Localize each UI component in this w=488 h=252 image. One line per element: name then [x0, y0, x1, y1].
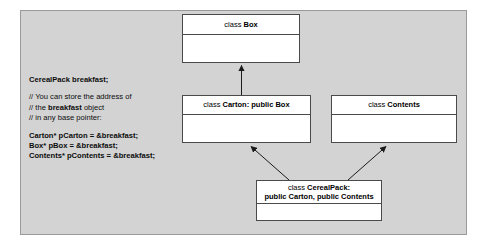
class-name: CerealPack: — [307, 183, 350, 192]
code-declaration: CerealPack breakfast; — [29, 75, 204, 85]
class-keyword: class — [288, 183, 307, 192]
code-annotation: CerealPack breakfast; // You can store t… — [29, 75, 204, 162]
class-box-cerealpack[interactable]: class CerealPack: public Carton, public … — [256, 180, 382, 221]
class-box-header: class CerealPack: public Carton, public … — [257, 181, 381, 204]
code-spacer-1 — [29, 85, 204, 92]
class-box-contents[interactable]: class Contents — [331, 95, 457, 143]
code-statement-1: Carton* pCarton = &breakfast; — [29, 131, 204, 141]
class-box-body — [257, 204, 381, 221]
class-box-body — [183, 35, 299, 63]
class-bases-line: public Carton, public Contents — [264, 192, 373, 202]
code-comment-line-1: // You can store the address of — [29, 92, 204, 102]
class-title-line: class CerealPack: — [288, 183, 350, 193]
code-comment-bold-word: breakfast — [48, 103, 82, 112]
class-name: Contents — [387, 100, 420, 109]
code-statement-3: Contents* pContents = &breakfast; — [29, 151, 204, 161]
class-title-line: class Carton: public Box — [203, 100, 289, 110]
diagram-canvas: class Box class Carton: public Box class… — [0, 0, 488, 252]
class-name: Box — [244, 20, 258, 29]
code-comment-line-3: // in any base pointer: — [29, 113, 204, 123]
class-keyword: class — [224, 20, 243, 29]
class-title-line: class Contents — [368, 100, 420, 110]
code-comment-prefix: // the — [29, 103, 48, 112]
code-spacer-2 — [29, 124, 204, 131]
code-comment-suffix: object — [82, 103, 104, 112]
code-comment-line-2: // the breakfast object — [29, 103, 204, 113]
class-box-header: class Box — [183, 15, 299, 35]
class-keyword: class — [368, 100, 387, 109]
class-name: Carton: public Box — [223, 100, 290, 109]
class-box-box[interactable]: class Box — [182, 14, 300, 63]
class-box-body — [332, 115, 456, 143]
code-statement-2: Box* pBox = &breakfast; — [29, 141, 204, 151]
class-box-header: class Contents — [332, 96, 456, 115]
class-title-line: class Box — [224, 20, 257, 30]
class-keyword: class — [203, 100, 222, 109]
